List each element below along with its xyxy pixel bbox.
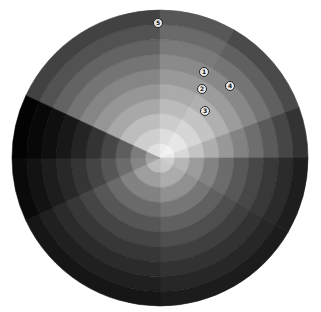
radial-wheel (0, 0, 321, 312)
numbered-marker: 2 (197, 84, 207, 94)
numbered-marker: 5 (153, 18, 163, 28)
numbered-marker: 4 (225, 81, 235, 91)
numbered-marker: 1 (199, 67, 209, 77)
numbered-marker: 3 (200, 106, 210, 116)
